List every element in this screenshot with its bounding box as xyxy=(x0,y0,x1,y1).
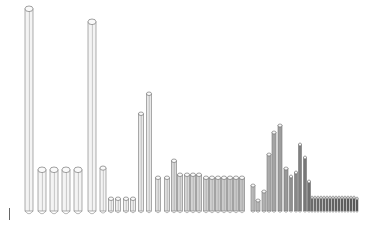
bar xyxy=(156,176,161,213)
bar xyxy=(116,197,121,213)
bar xyxy=(204,176,209,213)
bar xyxy=(299,143,302,213)
bar xyxy=(326,196,328,213)
bar xyxy=(323,196,325,213)
bar xyxy=(284,167,288,213)
bar xyxy=(356,197,358,213)
bar xyxy=(109,197,114,213)
bar xyxy=(216,176,221,213)
bar xyxy=(353,196,355,213)
bar xyxy=(338,196,340,213)
bar xyxy=(272,131,276,213)
bar xyxy=(234,176,239,213)
bar xyxy=(350,196,352,213)
bar xyxy=(332,196,334,213)
bar xyxy=(147,92,152,213)
bar xyxy=(38,167,46,214)
bar xyxy=(25,6,33,214)
bar xyxy=(295,171,298,213)
bar xyxy=(311,196,313,213)
bar xyxy=(308,180,311,213)
bar xyxy=(191,173,196,213)
axis-tick-mark xyxy=(9,208,10,220)
bar-chart xyxy=(0,0,366,226)
bar xyxy=(165,176,170,213)
bar xyxy=(124,197,129,213)
bar xyxy=(304,156,307,213)
bar xyxy=(74,167,82,214)
bar xyxy=(256,199,260,213)
bar xyxy=(88,19,96,214)
bar xyxy=(228,176,233,213)
bar xyxy=(267,153,271,213)
bar xyxy=(197,173,202,213)
bar xyxy=(290,175,293,213)
bar xyxy=(100,166,106,213)
bar xyxy=(262,190,266,213)
bar xyxy=(210,176,215,213)
bar xyxy=(329,196,331,213)
bar xyxy=(251,184,255,213)
bar xyxy=(341,196,343,213)
bar xyxy=(314,196,316,213)
bar xyxy=(320,196,322,213)
bar xyxy=(347,196,349,213)
bar xyxy=(139,112,144,213)
bar xyxy=(240,176,245,213)
bar xyxy=(278,124,282,213)
bar xyxy=(185,173,190,213)
bar xyxy=(172,159,177,213)
bar xyxy=(335,196,337,213)
bar xyxy=(317,196,319,213)
bar xyxy=(62,167,70,214)
bar xyxy=(344,196,346,213)
bar xyxy=(131,197,136,213)
bar xyxy=(178,173,183,213)
bar xyxy=(222,176,227,213)
bar xyxy=(50,167,58,214)
